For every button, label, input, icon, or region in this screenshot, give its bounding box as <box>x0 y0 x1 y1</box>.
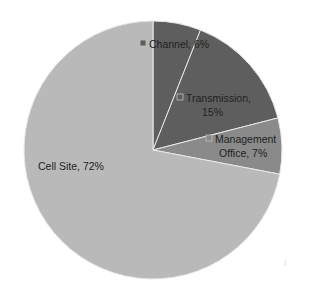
data-label-text: Cell Site, 72% <box>38 160 104 172</box>
data-label-text: Office, 7% <box>219 147 267 159</box>
scan-artifact: ⁝ <box>284 258 287 267</box>
legend-key-icon <box>206 135 212 141</box>
data-label-channel: Channel, 6% <box>140 38 209 50</box>
legend-key-icon <box>140 40 146 46</box>
data-label-text: Transmission, <box>186 92 251 104</box>
legend-key-icon <box>29 162 35 168</box>
data-label-text: Management <box>215 133 276 145</box>
legend-key-icon <box>177 94 183 100</box>
data-label-cell-site: Cell Site, 72% <box>29 160 104 172</box>
data-label-text: Channel, 6% <box>149 38 209 50</box>
pie-chart: Channel, 6%Transmission,15%ManagementOff… <box>0 0 311 300</box>
data-label-text: 15% <box>202 106 223 118</box>
